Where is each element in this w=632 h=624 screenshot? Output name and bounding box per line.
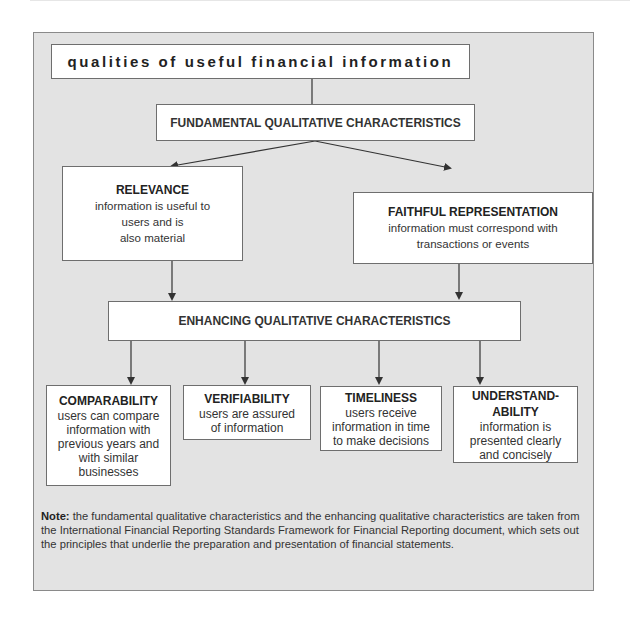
comparability-title: COMPARABILITY	[59, 393, 158, 409]
comparability-desc-line: information with	[66, 423, 150, 437]
faithful-representation-title: FAITHFUL REPRESENTATION	[388, 204, 558, 220]
title-box: qualities of useful financial informatio…	[51, 44, 470, 79]
relevance-desc-line: users and is	[121, 214, 183, 230]
faithful-representation-box: FAITHFUL REPRESENTATION information must…	[353, 192, 593, 264]
understandability-desc-line: presented clearly	[470, 434, 561, 448]
verifiability-desc-line: users are assured	[199, 407, 295, 421]
enhancing-label: ENHANCING QUALITATIVE CHARACTERISTICS	[178, 314, 450, 328]
relevance-title: RELEVANCE	[116, 182, 189, 198]
top-rule	[30, 0, 630, 1]
comparability-desc-line: with similar	[79, 451, 138, 465]
faithful-desc-line: transactions or events	[417, 236, 530, 252]
understandability-desc-line: and concisely	[479, 448, 552, 462]
understandability-desc-line: information is	[480, 420, 551, 434]
understandability-title-line: UNDERSTAND-	[472, 388, 559, 404]
note-label: Note:	[41, 510, 70, 522]
understandability-box: UNDERSTAND- ABILITY information is prese…	[453, 386, 578, 463]
relevance-box: RELEVANCE information is useful to users…	[62, 166, 243, 261]
relevance-desc-line: information is useful to	[95, 198, 210, 214]
diagram-title: qualities of useful financial informatio…	[68, 53, 454, 70]
verifiability-box: VERIFIABILITY users are assured of infor…	[183, 385, 311, 440]
comparability-desc-line: previous years and	[58, 437, 159, 451]
fundamental-label: FUNDAMENTAL QUALITATIVE CHARACTERISTICS	[170, 116, 460, 130]
verifiability-title: VERIFIABILITY	[204, 391, 289, 407]
enhancing-characteristics-box: ENHANCING QUALITATIVE CHARACTERISTICS	[108, 301, 521, 341]
timeliness-title: TIMELINESS	[345, 390, 417, 406]
comparability-desc-line: users can compare	[57, 409, 159, 423]
footnote: Note: the fundamental qualitative charac…	[41, 509, 586, 551]
timeliness-desc-line: information in time	[332, 420, 430, 434]
comparability-desc-line: businesses	[78, 465, 138, 479]
verifiability-desc-line: of information	[211, 421, 284, 435]
timeliness-desc-line: users receive	[345, 406, 416, 420]
comparability-box: COMPARABILITY users can compare informat…	[46, 385, 171, 486]
timeliness-box: TIMELINESS users receive information in …	[320, 386, 442, 451]
fundamental-characteristics-box: FUNDAMENTAL QUALITATIVE CHARACTERISTICS	[156, 104, 475, 141]
timeliness-desc-line: to make decisions	[333, 434, 429, 448]
note-text: the fundamental qualitative characterist…	[41, 510, 580, 550]
understandability-title-line: ABILITY	[492, 404, 539, 420]
relevance-desc-line: also material	[120, 230, 185, 246]
faithful-desc-line: information must correspond with	[388, 220, 557, 236]
